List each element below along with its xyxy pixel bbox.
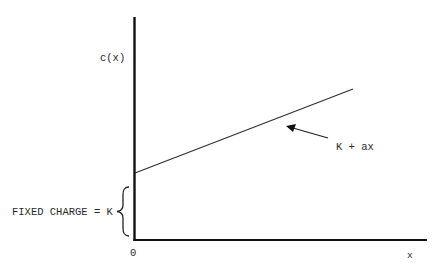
line-label: K + ax [336,142,374,153]
diagram-graphics [0,0,441,274]
cost-line [135,89,353,173]
cost-function-diagram: c(x) K + ax FIXED CHARGE = K 0 x [0,0,441,274]
arrow-shaft [293,128,328,138]
brace-icon [117,187,129,236]
fixed-charge-label: FIXED CHARGE = K [12,207,113,218]
arrow-head-icon [286,124,296,132]
y-axis-label: c(x) [100,53,125,64]
origin-label: 0 [130,248,136,259]
x-axis-label: x [407,251,413,261]
